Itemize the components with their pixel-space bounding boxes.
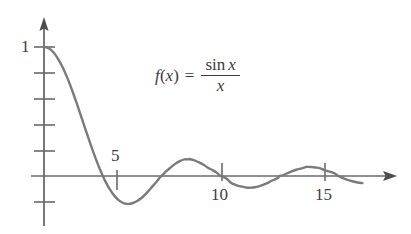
formula-fraction: sinx x xyxy=(201,56,239,96)
formula-numerator: sinx xyxy=(201,56,239,75)
formula-equals: = xyxy=(185,66,195,86)
formula-numerator-arg: x xyxy=(228,55,236,74)
function-formula: f(x) = sinx x xyxy=(155,56,240,96)
x-axis-label-15: 15 xyxy=(315,186,332,203)
sinc-function-figure: 1 5 10 15 f(x) = sinx x xyxy=(0,0,411,234)
formula-denominator: x xyxy=(213,76,229,95)
x-axis-label-10: 10 xyxy=(211,186,228,203)
y-axis-label-1: 1 xyxy=(21,38,30,55)
formula-arg: x xyxy=(166,66,174,86)
plot-canvas xyxy=(0,0,411,234)
x-axis-label-5: 5 xyxy=(111,147,120,164)
formula-rparen: ) xyxy=(173,66,179,86)
formula-sin: sin xyxy=(205,55,225,74)
